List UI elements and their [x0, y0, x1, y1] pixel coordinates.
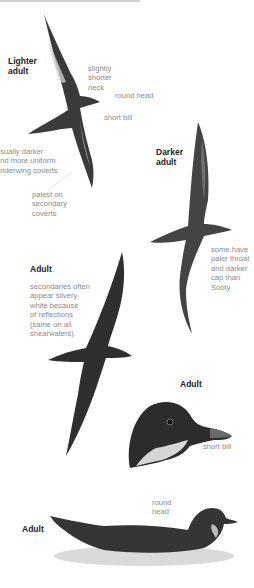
panel-4-title: Adult	[180, 379, 202, 389]
panel-3-title: Adult	[30, 264, 52, 274]
panel-5-note-head: round head	[152, 498, 171, 517]
adult-head-illustration	[126, 398, 236, 473]
field-guide-plate: Lighter adult slightly shorter neck roun…	[0, 0, 254, 588]
panel-5-title: Adult	[22, 524, 44, 534]
swimming-adult-illustration	[44, 498, 234, 578]
panel-2-note-throat: some have paler throat and darker cap th…	[211, 245, 249, 292]
panel-4-note-bill: short bill	[203, 442, 231, 451]
panel-3-note-secondaries: secondaries often appear silvery white b…	[30, 282, 90, 338]
panel-2-title: Darker adult	[156, 147, 183, 167]
